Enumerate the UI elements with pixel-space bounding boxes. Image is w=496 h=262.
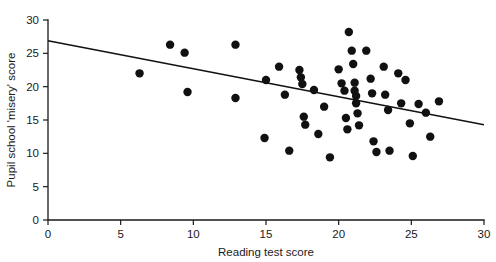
axes <box>48 20 484 220</box>
x-tick-label: 20 <box>332 228 345 240</box>
y-tick-label: 25 <box>26 47 39 59</box>
x-tick-label: 10 <box>187 228 200 240</box>
data-point <box>409 152 417 160</box>
data-point <box>422 108 430 116</box>
data-point <box>326 153 334 161</box>
data-point <box>300 112 308 120</box>
data-point <box>380 62 388 70</box>
x-tick-label: 30 <box>478 228 491 240</box>
data-point <box>355 121 363 129</box>
data-point <box>135 69 143 77</box>
data-point <box>180 48 188 56</box>
y-tick-label: 15 <box>26 114 39 126</box>
data-point <box>301 120 309 128</box>
x-tick-label: 0 <box>45 228 51 240</box>
data-point <box>352 92 360 100</box>
data-point <box>394 69 402 77</box>
data-point <box>281 90 289 98</box>
data-points <box>135 28 443 162</box>
data-point <box>352 99 360 107</box>
data-point <box>369 137 377 145</box>
y-tick-label: 10 <box>26 147 39 159</box>
y-tick-label: 30 <box>26 14 39 26</box>
data-point <box>362 46 370 54</box>
y-tick-label: 20 <box>26 81 39 93</box>
data-point <box>310 86 318 94</box>
x-tick-label: 25 <box>405 228 418 240</box>
data-point <box>183 88 191 96</box>
data-point <box>414 100 422 108</box>
data-point <box>285 146 293 154</box>
data-point <box>342 114 350 122</box>
data-point <box>349 60 357 68</box>
data-point <box>334 65 342 73</box>
data-point <box>340 86 348 94</box>
data-point <box>345 28 353 36</box>
scatter-plot-figure: 051015202530051015202530 Reading test sc… <box>0 0 496 262</box>
data-point <box>435 97 443 105</box>
data-point <box>231 40 239 48</box>
data-point <box>275 62 283 70</box>
data-point <box>166 40 174 48</box>
data-point <box>295 66 303 74</box>
y-tick-label: 0 <box>33 214 39 226</box>
data-point <box>353 109 361 117</box>
y-tick-label: 5 <box>33 181 39 193</box>
data-point <box>368 89 376 97</box>
data-point <box>320 102 328 110</box>
x-tick-label: 15 <box>260 228 273 240</box>
data-point <box>260 134 268 142</box>
data-point <box>366 74 374 82</box>
data-point <box>372 148 380 156</box>
x-tick-label: 5 <box>117 228 123 240</box>
x-axis-title: Reading test score <box>218 246 314 258</box>
data-point <box>350 78 358 86</box>
data-point <box>348 46 356 54</box>
data-point <box>337 79 345 87</box>
data-point <box>406 119 414 127</box>
plot-canvas: 051015202530051015202530 Reading test sc… <box>0 0 496 262</box>
data-point <box>314 130 322 138</box>
axis-tick-labels: 051015202530051015202530 <box>26 14 490 240</box>
data-point <box>426 132 434 140</box>
data-point <box>397 99 405 107</box>
data-point <box>385 146 393 154</box>
data-point <box>343 125 351 133</box>
axis-ticks <box>43 20 484 225</box>
data-point <box>381 90 389 98</box>
data-point <box>401 76 409 84</box>
data-point <box>262 76 270 84</box>
data-point <box>298 80 306 88</box>
data-point <box>231 94 239 102</box>
data-point <box>384 106 392 114</box>
y-axis-title: Pupil school 'misery' score <box>5 53 17 188</box>
axis-spines <box>48 20 484 220</box>
